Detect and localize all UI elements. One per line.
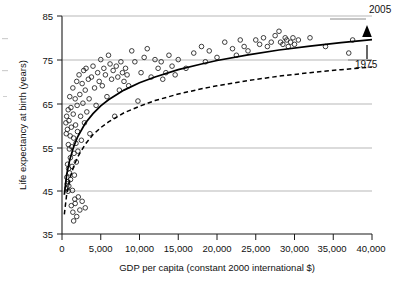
scan-artifacts — [2, 38, 8, 97]
data-point — [77, 73, 82, 78]
data-point — [71, 86, 76, 91]
data-point — [100, 83, 105, 88]
data-point — [102, 66, 107, 71]
data-point — [67, 94, 72, 99]
data-point — [191, 51, 196, 56]
data-point — [261, 36, 266, 41]
scatter-plot: 85 75 65 55 45 35 0 5,000 10,000 15,000 … — [0, 0, 397, 282]
data-point — [83, 206, 88, 211]
x-tick-label: 10,000 — [125, 243, 154, 254]
x-axis-title: GDP per capita (constant 2000 internatio… — [119, 262, 315, 273]
data-point — [207, 49, 212, 54]
data-point — [71, 136, 76, 141]
data-point — [153, 57, 158, 62]
data-point — [291, 36, 296, 41]
data-point — [98, 57, 103, 62]
data-point — [66, 142, 71, 147]
data-point — [111, 68, 116, 73]
data-point — [173, 73, 178, 78]
data-point — [103, 73, 108, 78]
data-point — [139, 70, 144, 75]
data-point — [269, 40, 274, 45]
trend-line-1975 — [64, 67, 372, 214]
x-tick-label: 0 — [59, 243, 64, 254]
x-axis-ticks — [62, 234, 372, 240]
data-point — [64, 114, 69, 119]
data-point — [129, 49, 134, 54]
up-arrow-icon — [362, 25, 372, 37]
y-tick-label: 65 — [42, 99, 53, 110]
data-point — [120, 70, 125, 75]
data-point — [116, 75, 121, 80]
data-point — [71, 219, 76, 224]
data-point — [265, 44, 270, 49]
trend-line-2005 — [64, 40, 372, 195]
series-label-1975: 1975 — [355, 59, 378, 70]
y-tick-label: 45 — [42, 186, 53, 197]
data-point — [253, 38, 258, 43]
data-point — [73, 123, 78, 128]
chart-container: 85 75 65 55 45 35 0 5,000 10,000 15,000 … — [0, 0, 397, 282]
data-point — [230, 46, 235, 51]
data-point — [106, 53, 111, 58]
data-point — [215, 55, 220, 60]
x-tick-label: 5,000 — [89, 243, 113, 254]
data-point — [145, 46, 150, 51]
data-point — [156, 66, 161, 71]
data-point — [80, 81, 85, 86]
data-point — [71, 112, 76, 117]
data-point — [136, 99, 141, 104]
data-point — [78, 208, 83, 213]
data-point — [222, 40, 227, 45]
data-point — [273, 33, 278, 38]
y-tick-label: 35 — [42, 229, 53, 240]
data-point — [87, 97, 92, 102]
data-point — [92, 86, 97, 91]
data-point — [71, 210, 76, 215]
x-tick-label: 15,000 — [164, 243, 193, 254]
data-point — [74, 214, 79, 219]
data-point — [97, 79, 102, 84]
data-point — [170, 64, 175, 69]
data-point — [83, 88, 88, 93]
data-point — [91, 64, 96, 69]
data-point — [73, 201, 78, 206]
data-point — [74, 79, 79, 84]
data-point — [78, 114, 83, 119]
data-point — [114, 64, 119, 69]
data-point — [105, 94, 110, 99]
x-tick-label: 35,000 — [317, 243, 346, 254]
x-tick-label: 20,000 — [202, 243, 231, 254]
data-point — [246, 49, 251, 54]
data-point — [95, 70, 100, 75]
y-axis-title: Life expectancy at birth (years) — [17, 60, 28, 190]
data-point — [78, 92, 83, 97]
data-point — [73, 97, 78, 102]
data-point — [346, 51, 351, 56]
data-point — [70, 188, 75, 193]
x-tick-label: 25,000 — [241, 243, 270, 254]
data-point — [277, 29, 282, 34]
y-axis-ticks — [57, 16, 62, 234]
data-point — [296, 38, 301, 43]
y-tick-label: 75 — [42, 55, 53, 66]
data-point — [160, 77, 165, 82]
x-tick-label: 30,000 — [280, 243, 309, 254]
data-point — [176, 57, 181, 62]
data-point — [242, 44, 247, 49]
data-point — [81, 101, 86, 106]
data-point — [308, 36, 313, 41]
data-point — [238, 38, 243, 43]
data-point — [108, 62, 113, 67]
y-axis-tick-labels: 85 75 65 55 45 35 — [42, 11, 53, 240]
data-point — [142, 55, 147, 60]
data-point — [167, 53, 172, 58]
x-tick-label: 40,000 — [356, 243, 385, 254]
data-point — [76, 195, 81, 200]
data-point — [123, 66, 128, 71]
data-point — [109, 77, 114, 82]
data-point — [79, 138, 84, 143]
data-point — [72, 173, 77, 178]
y-tick-label: 55 — [42, 143, 53, 154]
y-tick-label: 85 — [42, 11, 53, 22]
